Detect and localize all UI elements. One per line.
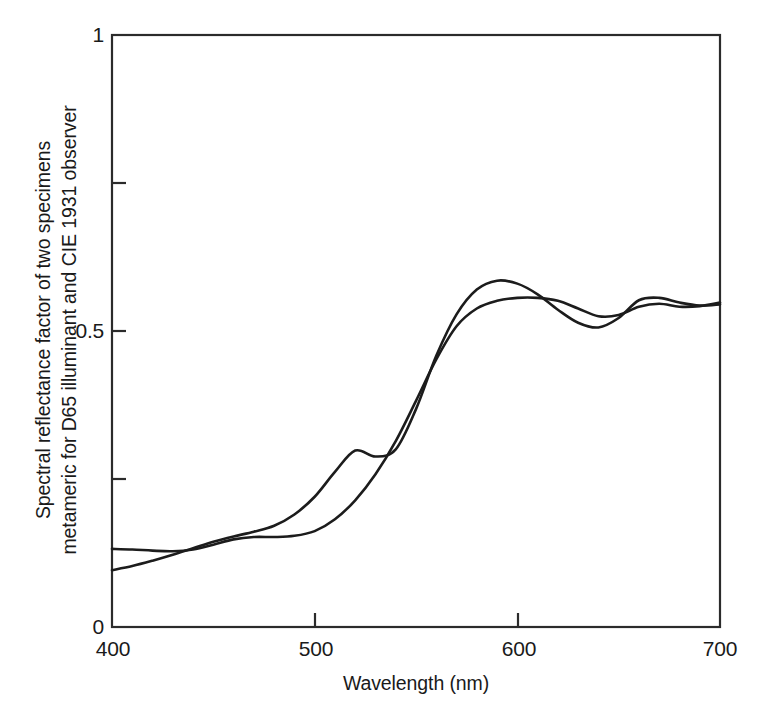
y-axis-ticks: [112, 183, 126, 479]
plot-svg: [0, 0, 759, 718]
curve-specimen-2: [112, 280, 720, 570]
curve-specimen-1: [112, 297, 720, 551]
x-axis-ticks: [315, 613, 518, 627]
plot-frame: [112, 35, 720, 627]
chart-figure: Spectral reflectance factor of two speci…: [0, 0, 759, 718]
